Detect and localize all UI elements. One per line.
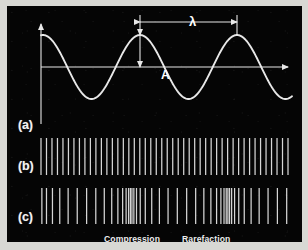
row-label-c: (c): [18, 210, 33, 224]
row-label-a: (a): [18, 118, 33, 132]
wavelength-label: λ: [189, 14, 196, 29]
compression-label: Compression: [104, 234, 160, 242]
compression-rarefaction-lines: [7, 6, 302, 242]
row-label-b: (b): [18, 159, 33, 173]
amplitude-label: A: [161, 68, 170, 82]
figure-panel: λ A (a) (b) (c) Compression Rarefaction: [7, 6, 302, 242]
wave-figure: λ A (a) (b) (c) Compression Rarefaction: [0, 0, 308, 250]
rarefaction-label: Rarefaction: [182, 234, 230, 242]
